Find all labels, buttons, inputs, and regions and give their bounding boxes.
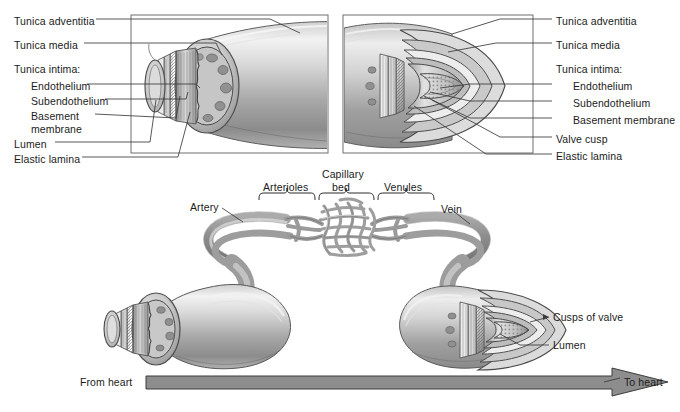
vein-label-subendothelium: Subendothelium bbox=[573, 97, 650, 110]
artery-label-tunica-adventitia: Tunica adventitia bbox=[14, 15, 95, 28]
blood-flow-arrow-shape bbox=[146, 368, 668, 396]
artery-label-elastic-lamina: Elastic lamina bbox=[14, 153, 80, 166]
lower-artery-illustration bbox=[104, 262, 291, 369]
label-artery: Artery bbox=[190, 201, 219, 214]
bracket-label-capillary: Capillary bbox=[322, 168, 364, 181]
lower-vein-illustration bbox=[400, 262, 566, 370]
label-vein: Vein bbox=[441, 203, 462, 216]
vein-label-tunica-media: Tunica media bbox=[556, 39, 620, 52]
artery-label-endothelium: Endothelium bbox=[31, 80, 90, 93]
label-lumen: Lumen bbox=[553, 339, 586, 352]
vein-label-elastic-lamina: Elastic lamina bbox=[556, 150, 622, 163]
vein-label-tunica-adventitia: Tunica adventitia bbox=[556, 15, 637, 28]
label-from-heart: From heart bbox=[80, 376, 132, 389]
label-cusps-of-valve: Cusps of valve bbox=[553, 311, 623, 324]
bracket-label-arterioles: Arterioles bbox=[263, 181, 308, 194]
vein-label-tunica-intima-heading: Tunica intima: bbox=[556, 63, 622, 76]
vein-label-basement-membrane: Basement membrane bbox=[573, 114, 675, 127]
bracket-label-capillary-bed: bed bbox=[332, 181, 350, 194]
vein-label-endothelium: Endothelium bbox=[573, 80, 632, 93]
vein-label-valve-cusp: Valve cusp bbox=[556, 133, 608, 146]
bracket-label-venules: Venules bbox=[384, 181, 422, 194]
artery-label-tunica-media: Tunica media bbox=[14, 39, 78, 52]
label-to-heart: To heart bbox=[624, 376, 663, 389]
artery-label-tunica-intima-heading: Tunica intima: bbox=[14, 63, 80, 76]
artery-label-subendothelium: Subendothelium bbox=[31, 95, 108, 108]
artery-label-lumen: Lumen bbox=[14, 138, 47, 151]
figure-canvas: Tunica adventitia Tunica media Tunica in… bbox=[0, 0, 680, 412]
artery-label-basement-membrane: Basement membrane bbox=[31, 110, 105, 136]
